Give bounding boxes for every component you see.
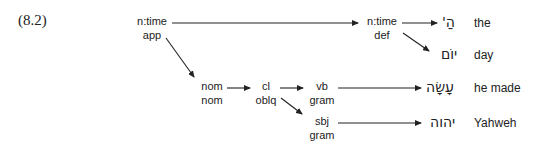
- node-vb-top: vb: [305, 80, 339, 94]
- gloss-the: the: [474, 16, 491, 30]
- arrow-def-to-day: [403, 33, 429, 51]
- node-cl-top: cl: [250, 80, 282, 94]
- node-root-top: n:time: [130, 15, 174, 29]
- arrow-cl-to-sbj: [281, 98, 302, 114]
- node-sbj-top: sbj: [305, 115, 339, 129]
- node-sbj: sbj gram: [305, 115, 339, 141]
- node-vb-bottom: gram: [305, 94, 339, 108]
- gloss-he-made: he made: [474, 81, 521, 95]
- node-def-bottom: def: [360, 29, 404, 43]
- hebrew-word-day: יוֹם: [441, 46, 457, 62]
- hebrew-word-yahweh: יהוה: [430, 114, 455, 130]
- node-nom-bottom: nom: [195, 94, 229, 108]
- node-nom: nom nom: [195, 80, 229, 107]
- diagram-arrows: [0, 0, 538, 141]
- node-root-bottom: app: [130, 29, 174, 43]
- arrow-root-to-nom: [166, 38, 194, 77]
- node-cl: cl oblq: [250, 80, 282, 107]
- node-def: n:time def: [360, 15, 404, 42]
- dependency-diagram: (8.2) n:time app n:time def nom nom cl o…: [0, 0, 538, 141]
- hebrew-word-the: הַ': [442, 14, 455, 30]
- example-number: (8.2): [18, 12, 47, 29]
- hebrew-word-he-made: עָשָׂה: [426, 79, 454, 95]
- node-vb: vb gram: [305, 80, 339, 107]
- gloss-yahweh: Yahweh: [474, 116, 516, 130]
- node-cl-bottom: oblq: [250, 94, 282, 108]
- node-def-top: n:time: [360, 15, 404, 29]
- node-sbj-bottom: gram: [305, 129, 339, 142]
- node-root: n:time app: [130, 15, 174, 42]
- gloss-day: day: [474, 48, 493, 62]
- node-nom-top: nom: [195, 80, 229, 94]
